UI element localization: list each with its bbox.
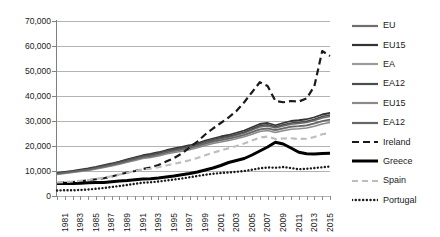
x-tick-label: 1983 (76, 213, 85, 232)
x-tick-mark (182, 196, 183, 200)
x-tick-mark (80, 196, 81, 200)
legend-label: Ireland (383, 138, 411, 147)
chart-container: 010,00020,00030,00040,00050,00060,00070,… (0, 0, 440, 237)
y-tick-label: 0 (1, 192, 51, 201)
legend-item-ea12-5[interactable]: EA12 (352, 113, 440, 132)
x-tick-mark (127, 196, 128, 200)
x-tick-label: 1987 (107, 213, 116, 232)
x-tick-mark (299, 196, 300, 200)
dashed-lightgray-line-swatch (352, 176, 378, 186)
x-tick-label: 1989 (123, 213, 132, 232)
x-tick-mark (197, 196, 198, 200)
legend-item-portugal-9[interactable]: Portugal (352, 191, 440, 210)
x-tick-mark (260, 196, 261, 200)
x-tick-mark (174, 196, 175, 200)
legend-label: EA12 (383, 79, 405, 88)
y-tick-label: 10,000 (1, 167, 51, 176)
x-tick-mark (236, 196, 237, 200)
data-series-lines (57, 21, 330, 196)
x-tick-mark (330, 196, 331, 200)
dashed-black-line-swatch (352, 137, 378, 147)
x-tick-mark (158, 196, 159, 200)
y-tick-label: 30,000 (1, 117, 51, 126)
y-tick-label: 60,000 (1, 42, 51, 51)
x-tick-mark (314, 196, 315, 200)
legend-label: EU (383, 21, 396, 30)
x-tick-mark (104, 196, 105, 200)
legend-label: Spain (383, 176, 406, 185)
x-tick-mark (268, 196, 269, 200)
legend-label: EU15 (383, 41, 406, 50)
legend-label: EA (383, 60, 395, 69)
legend-item-eu-0[interactable]: EU (352, 16, 440, 35)
thick-black-line-swatch (352, 156, 378, 166)
x-tick-label: 2009 (279, 213, 288, 232)
x-tick-mark (73, 196, 74, 200)
x-tick-mark (252, 196, 253, 200)
x-tick-mark (307, 196, 308, 200)
x-tick-mark (57, 196, 58, 200)
x-tick-mark (244, 196, 245, 200)
gridline-0 (57, 196, 330, 197)
legend-item-spain-8[interactable]: Spain (352, 171, 440, 190)
legend-item-ireland-6[interactable]: Ireland (352, 132, 440, 151)
x-tick-label: 1997 (185, 213, 194, 232)
chart-legend: EUEU15EAEA12EU15EA12IrelandGreeceSpainPo… (352, 16, 440, 210)
legend-label: Greece (383, 157, 413, 166)
x-tick-label: 2007 (263, 213, 272, 232)
solid-midgray-line-swatch (352, 79, 378, 89)
legend-label: EA12 (383, 118, 405, 127)
x-tick-label: 2003 (232, 213, 241, 232)
x-tick-mark (65, 196, 66, 200)
x-tick-label: 1985 (92, 213, 101, 232)
legend-item-greece-7[interactable]: Greece (352, 152, 440, 171)
legend-item-eu15-4[interactable]: EU15 (352, 94, 440, 113)
x-tick-mark (119, 196, 120, 200)
series-line-spain (57, 133, 330, 183)
x-tick-label: 1995 (170, 213, 179, 232)
solid-lightgray-line-swatch (352, 59, 378, 69)
y-tick-label: 40,000 (1, 92, 51, 101)
x-tick-mark (291, 196, 292, 200)
series-line-eu15 (57, 113, 330, 173)
x-tick-label: 2001 (217, 213, 226, 232)
x-tick-mark (151, 196, 152, 200)
x-tick-label: 2011 (295, 214, 304, 232)
solid-gray2-line-swatch (352, 98, 378, 108)
x-tick-mark (166, 196, 167, 200)
x-tick-mark (190, 196, 191, 200)
legend-label: Portugal (383, 196, 417, 205)
x-tick-mark (135, 196, 136, 200)
x-tick-mark (213, 196, 214, 200)
y-tick-label: 50,000 (1, 67, 51, 76)
solid-gray3-line-swatch (352, 118, 378, 128)
x-tick-mark (143, 196, 144, 200)
x-tick-mark (88, 196, 89, 200)
x-tick-mark (221, 196, 222, 200)
legend-label: EU15 (383, 99, 406, 108)
solid-gray-line-swatch (352, 21, 378, 31)
x-tick-mark (112, 196, 113, 200)
x-tick-mark (205, 196, 206, 200)
x-tick-mark (283, 196, 284, 200)
x-tick-mark (275, 196, 276, 200)
x-tick-mark (96, 196, 97, 200)
x-tick-label: 1991 (139, 213, 148, 232)
x-tick-mark (229, 196, 230, 200)
series-line-ireland (57, 51, 330, 183)
legend-item-ea12-3[interactable]: EA12 (352, 74, 440, 93)
x-tick-label: 2005 (248, 213, 257, 232)
legend-item-ea-2[interactable]: EA (352, 55, 440, 74)
solid-darkgray-line-swatch (352, 40, 378, 50)
legend-item-eu15-1[interactable]: EU15 (352, 35, 440, 54)
x-tick-label: 1999 (201, 213, 210, 232)
x-tick-label: 2015 (326, 213, 335, 232)
x-tick-mark (322, 196, 323, 200)
dotted-black-line-swatch (352, 195, 378, 205)
y-tick-label: 70,000 (1, 17, 51, 26)
y-tick-label: 20,000 (1, 142, 51, 151)
x-tick-label: 1993 (154, 213, 163, 232)
x-tick-label: 1981 (61, 213, 70, 232)
plot-area (57, 21, 330, 196)
x-tick-label: 2013 (310, 213, 319, 232)
